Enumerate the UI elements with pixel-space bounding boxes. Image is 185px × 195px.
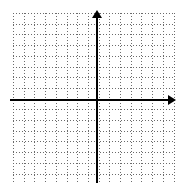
- gridline-horizontal: [13, 141, 174, 142]
- gridline-horizontal: [13, 131, 174, 132]
- gridline-horizontal: [13, 109, 174, 110]
- gridline-vertical: [24, 13, 25, 182]
- gridline-vertical: [141, 13, 142, 182]
- gridline-horizontal: [13, 24, 174, 25]
- gridline-horizontal: [13, 120, 174, 121]
- coordinate-plane-figure: [0, 0, 185, 195]
- gridline-horizontal: [13, 56, 174, 57]
- x-axis: [10, 99, 170, 101]
- gridline-vertical: [120, 13, 121, 182]
- arrow-right-icon: [168, 95, 176, 105]
- gridline-horizontal: [13, 77, 174, 78]
- gridline-vertical: [67, 13, 68, 182]
- arrow-up-icon: [92, 10, 102, 18]
- gridline-horizontal: [13, 174, 174, 175]
- gridline-horizontal: [13, 34, 174, 35]
- gridline-vertical: [13, 13, 14, 182]
- grid-lines: [13, 13, 174, 182]
- gridline-vertical: [163, 13, 164, 182]
- gridline-vertical: [56, 13, 57, 182]
- gridline-vertical: [99, 13, 100, 182]
- gridline-horizontal: [13, 67, 174, 68]
- gridline-vertical: [88, 13, 89, 182]
- gridline-horizontal: [13, 163, 174, 164]
- gridline-horizontal: [13, 152, 174, 153]
- gridline-vertical: [77, 13, 78, 182]
- gridline-vertical: [109, 13, 110, 182]
- gridline-vertical: [131, 13, 132, 182]
- gridline-horizontal: [13, 88, 174, 89]
- y-axis: [96, 16, 98, 183]
- gridline-vertical: [34, 13, 35, 182]
- gridline-vertical: [152, 13, 153, 182]
- gridline-horizontal: [13, 45, 174, 46]
- gridline-vertical: [45, 13, 46, 182]
